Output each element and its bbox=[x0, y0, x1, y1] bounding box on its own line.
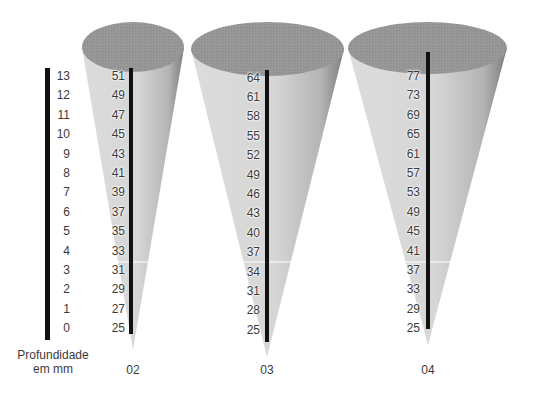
cone-02-value: 31 bbox=[103, 263, 125, 277]
cone-02-value: 37 bbox=[103, 205, 125, 219]
cone-04-value: 29 bbox=[398, 302, 420, 316]
cone-04-value: 57 bbox=[398, 166, 420, 180]
cone-04-value: 69 bbox=[398, 108, 420, 122]
cone-03-value: 61 bbox=[238, 90, 260, 104]
cone-03-value: 55 bbox=[238, 129, 260, 143]
cone-label-03: 03 bbox=[252, 363, 282, 377]
cone-04-value: 53 bbox=[398, 185, 420, 199]
depth-tick-label: 1 bbox=[46, 302, 70, 316]
cone-02-value: 27 bbox=[103, 302, 125, 316]
depth-tick-label: 9 bbox=[46, 147, 70, 161]
cone-02-value: 25 bbox=[103, 321, 125, 335]
cone-03-value: 46 bbox=[238, 187, 260, 201]
depth-tick-label: 3 bbox=[46, 263, 70, 277]
cone-04-value: 77 bbox=[398, 69, 420, 83]
cone-02-value: 33 bbox=[103, 244, 125, 258]
cone-03-value: 58 bbox=[238, 109, 260, 123]
depth-tick-label: 8 bbox=[46, 166, 70, 180]
cone-04-value: 45 bbox=[398, 224, 420, 238]
cone-02-value: 49 bbox=[103, 88, 125, 102]
cone-04-bar bbox=[426, 52, 430, 329]
depth-tick-label: 0 bbox=[46, 321, 70, 335]
cone-02-value: 47 bbox=[103, 108, 125, 122]
depth-tick-label: 6 bbox=[46, 205, 70, 219]
cone-03-value: 43 bbox=[238, 206, 260, 220]
depth-tick-label: 12 bbox=[46, 88, 70, 102]
cone-03-bar bbox=[265, 70, 269, 342]
cone-02-value: 35 bbox=[103, 224, 125, 238]
cone-02-value: 43 bbox=[103, 147, 125, 161]
depth-tick-label: 7 bbox=[46, 185, 70, 199]
cone-04-value: 49 bbox=[398, 205, 420, 219]
cone-04-value: 73 bbox=[398, 88, 420, 102]
cone-04-value: 65 bbox=[398, 127, 420, 141]
cone-03-value: 49 bbox=[238, 168, 260, 182]
cone-03-value: 40 bbox=[238, 226, 260, 240]
cone-04-value: 61 bbox=[398, 147, 420, 161]
cone-04-value: 33 bbox=[398, 282, 420, 296]
cone-02-value: 29 bbox=[103, 282, 125, 296]
depth-tick-label: 5 bbox=[46, 224, 70, 238]
cone-02-value: 45 bbox=[103, 127, 125, 141]
depth-tick-label: 10 bbox=[46, 127, 70, 141]
cone-03-value: 25 bbox=[238, 323, 260, 337]
cone-04-value: 25 bbox=[398, 321, 420, 335]
depth-tick-label: 2 bbox=[46, 282, 70, 296]
cone-03-value: 37 bbox=[238, 245, 260, 259]
cone-label-02: 02 bbox=[118, 363, 148, 377]
cone-03-value: 64 bbox=[238, 71, 260, 85]
cone-03-value: 34 bbox=[238, 265, 260, 279]
cone-02-value: 39 bbox=[103, 185, 125, 199]
cone-03-value: 52 bbox=[238, 148, 260, 162]
cone-03-value: 28 bbox=[238, 303, 260, 317]
cone-04-value: 37 bbox=[398, 263, 420, 277]
depth-caption-line2: em mm bbox=[8, 362, 98, 376]
depth-tick-label: 4 bbox=[46, 244, 70, 258]
depth-tick-label: 11 bbox=[46, 108, 70, 122]
cone-label-04: 04 bbox=[413, 363, 443, 377]
cone-04-value: 41 bbox=[398, 244, 420, 258]
depth-caption-line1: Profundidade bbox=[8, 348, 98, 362]
cone-02-bar bbox=[129, 68, 133, 334]
cone-03-value: 31 bbox=[238, 284, 260, 298]
cone-02-value: 51 bbox=[103, 69, 125, 83]
cone-02-value: 41 bbox=[103, 166, 125, 180]
depth-tick-label: 13 bbox=[46, 69, 70, 83]
cones-graphic bbox=[0, 0, 542, 393]
